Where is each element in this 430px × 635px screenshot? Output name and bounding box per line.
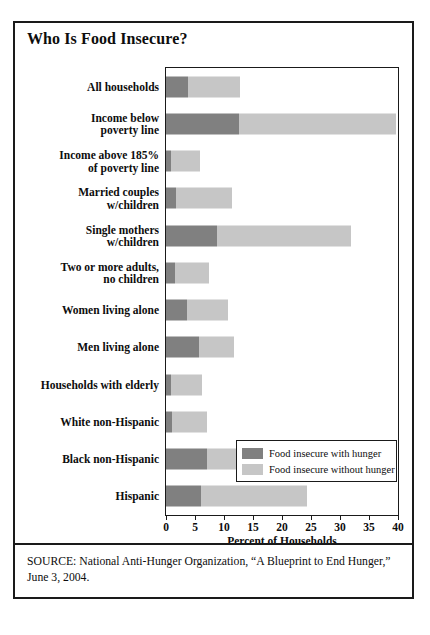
category-label: Single mothersw/children [15, 223, 159, 248]
source-divider [15, 543, 412, 545]
category-label: Two or more adults,no children [15, 260, 159, 285]
stacked-bar [166, 151, 398, 172]
stacked-bar [166, 486, 398, 507]
legend-swatch [242, 448, 263, 459]
category-label: Hispanic [15, 490, 159, 503]
category-label: Women living alone [15, 304, 159, 317]
chart-row: Households with elderly [15, 366, 412, 403]
axis-tick [398, 515, 399, 520]
bar-segment-without-hunger [199, 337, 234, 358]
stacked-bar [166, 188, 398, 209]
axis-tick-label: 10 [218, 521, 230, 533]
bar-segment-with-hunger [166, 76, 188, 97]
source-note: SOURCE: National Anti-Hunger Organizatio… [27, 554, 392, 586]
stacked-bar [166, 300, 398, 321]
x-axis-title: Percent of Households [165, 535, 399, 547]
bar-segment-without-hunger [201, 486, 307, 507]
bar-segment-without-hunger [188, 76, 240, 97]
chart-row: Two or more adults,no children [15, 254, 412, 291]
stacked-bar [166, 76, 398, 97]
axis-tick [282, 515, 283, 520]
stacked-bar [166, 225, 398, 246]
stacked-bar [166, 374, 398, 395]
category-label: Households with elderly [15, 378, 159, 391]
bar-segment-with-hunger [166, 225, 217, 246]
axis-tick [224, 515, 225, 520]
chart-row: Married couplesw/children [15, 180, 412, 217]
bar-segment-without-hunger [239, 113, 396, 134]
chart-row: Income above 185%of poverty line [15, 143, 412, 180]
axis-tick [195, 515, 196, 520]
axis-tick-label: 35 [363, 521, 375, 533]
figure-title: Who Is Food Insecure? [27, 30, 188, 48]
bar-segment-without-hunger [187, 300, 228, 321]
category-label: Income above 185%of poverty line [15, 149, 159, 174]
bar-segment-with-hunger [166, 188, 176, 209]
stacked-bar [166, 337, 398, 358]
bar-segment-without-hunger [217, 225, 351, 246]
legend-item: Food insecure with hunger [242, 445, 391, 461]
axis-tick-label: 15 [247, 521, 259, 533]
chart-row: Single mothersw/children [15, 217, 412, 254]
category-label: All households [15, 80, 159, 93]
axis-tick-label: 25 [305, 521, 317, 533]
legend-swatch [242, 464, 263, 475]
chart-row: Women living alone [15, 292, 412, 329]
legend-label: Food insecure without hunger [269, 464, 395, 475]
bar-segment-with-hunger [166, 486, 201, 507]
legend-label: Food insecure with hunger [269, 448, 381, 459]
legend-item: Food insecure without hunger [242, 461, 391, 477]
bar-segment-with-hunger [166, 300, 187, 321]
bar-segment-without-hunger [171, 374, 202, 395]
category-label: Men living alone [15, 341, 159, 354]
bar-segment-with-hunger [166, 449, 207, 470]
axis-tick [369, 515, 370, 520]
axis-tick-label: 30 [334, 521, 346, 533]
axis-tick [340, 515, 341, 520]
chart-legend: Food insecure with hungerFood insecure w… [236, 440, 397, 482]
bar-segment-without-hunger [175, 262, 209, 283]
bar-segment-with-hunger [166, 113, 239, 134]
axis-tick-label: 40 [392, 521, 404, 533]
category-label: Income belowpoverty line [15, 111, 159, 136]
chart-row: All households [15, 68, 412, 105]
bar-segment-with-hunger [166, 262, 175, 283]
stacked-bar [166, 411, 398, 432]
chart-row: Hispanic [15, 478, 412, 515]
chart-plot-area: All householdsIncome belowpoverty lineIn… [15, 63, 412, 543]
axis-tick-label: 5 [192, 521, 198, 533]
category-label: White non-Hispanic [15, 416, 159, 429]
axis-tick [253, 515, 254, 520]
bar-segment-without-hunger [172, 411, 207, 432]
bar-segment-without-hunger [171, 151, 200, 172]
axis-tick [166, 515, 167, 520]
chart-row: Income belowpoverty line [15, 105, 412, 142]
bar-segment-with-hunger [166, 337, 199, 358]
category-label: Married couplesw/children [15, 186, 159, 211]
bar-segment-without-hunger [176, 188, 232, 209]
axis-tick-label: 20 [276, 521, 288, 533]
axis-tick [311, 515, 312, 520]
stacked-bar [166, 262, 398, 283]
figure-panel: Who Is Food Insecure? All householdsInco… [13, 21, 414, 599]
category-label: Black non-Hispanic [15, 453, 159, 466]
chart-row: White non-Hispanic [15, 403, 412, 440]
axis-tick-label: 0 [163, 521, 169, 533]
chart-row: Men living alone [15, 329, 412, 366]
stacked-bar [166, 113, 398, 134]
